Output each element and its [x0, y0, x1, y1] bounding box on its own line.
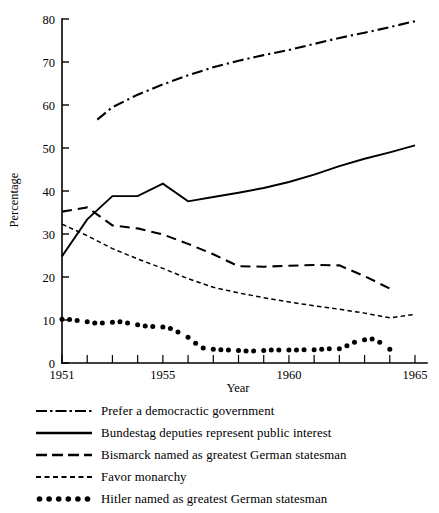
data-point	[211, 347, 216, 352]
legend-entry: Bismarck named as greatest German states…	[0, 444, 439, 466]
y-tick-label: 40	[43, 185, 56, 199]
series-line	[62, 145, 415, 256]
data-point	[218, 347, 223, 352]
chart-figure: 010203040506070801951195519601965 Percen…	[0, 0, 439, 513]
data-series-group	[60, 21, 416, 353]
data-point	[302, 347, 307, 352]
data-point	[160, 324, 165, 329]
data-point	[143, 324, 148, 329]
data-point	[67, 317, 72, 322]
data-point	[60, 317, 65, 322]
data-point	[337, 346, 342, 351]
x-axis-title: Year	[226, 381, 250, 395]
data-point	[175, 330, 180, 335]
data-point	[85, 319, 90, 324]
data-point	[201, 345, 206, 350]
legend-label: Hitler named as greatest German statesma…	[101, 492, 327, 507]
data-point	[193, 341, 198, 346]
data-point	[226, 348, 231, 353]
data-point	[387, 347, 392, 352]
axes: 010203040506070801951195519601965	[43, 13, 428, 383]
data-point	[168, 326, 173, 331]
data-point	[244, 348, 249, 353]
series-line	[97, 21, 415, 119]
legend-line-sample-round-dots	[36, 492, 92, 506]
legend-entry: Bundestag deputies represent public inte…	[0, 422, 439, 444]
data-point	[377, 340, 382, 345]
x-tick-label: 1965	[403, 368, 428, 382]
data-point	[125, 321, 130, 326]
legend-label: Bismarck named as greatest German states…	[101, 448, 347, 463]
x-tick-label: 1955	[150, 368, 175, 382]
data-point	[75, 318, 80, 323]
x-tick-label: 1951	[50, 368, 75, 382]
data-point	[135, 322, 140, 327]
legend-label: Bundestag deputies represent public inte…	[101, 426, 331, 441]
data-point	[319, 347, 324, 352]
data-point	[370, 336, 375, 341]
series-5	[60, 317, 393, 354]
legend-line-sample-dash-dot	[36, 404, 92, 418]
series-4	[62, 224, 415, 318]
data-point	[100, 321, 105, 326]
data-point	[276, 348, 281, 353]
y-tick-label: 10	[43, 314, 56, 328]
series-1	[97, 21, 415, 119]
y-tick-label: 60	[43, 99, 56, 113]
legend-line-sample-solid	[36, 426, 92, 440]
data-point	[312, 347, 317, 352]
legend-label: Prefer a democractic government	[101, 404, 274, 419]
data-point	[294, 348, 299, 353]
data-point	[269, 348, 274, 353]
y-tick-label: 20	[43, 271, 56, 285]
series-line	[62, 224, 415, 318]
legend-label: Favor monarchy	[101, 470, 187, 485]
data-point	[261, 348, 266, 353]
legend-entry: Prefer a democractic government	[0, 400, 439, 422]
data-point	[236, 348, 241, 353]
data-point	[344, 343, 349, 348]
data-point	[251, 348, 256, 353]
data-point	[150, 324, 155, 329]
data-point	[110, 320, 115, 325]
legend-entry: Hitler named as greatest German statesma…	[0, 488, 439, 510]
x-tick-label: 1960	[276, 368, 301, 382]
data-point	[327, 346, 332, 351]
line-chart-plot: 010203040506070801951195519601965 Percen…	[0, 0, 439, 400]
y-tick-label: 30	[43, 228, 56, 242]
y-tick-label: 70	[43, 56, 56, 70]
legend-entry: Favor monarchy	[0, 466, 439, 488]
y-axis-title: Percentage	[7, 172, 21, 227]
data-point	[286, 348, 291, 353]
series-2	[62, 145, 415, 256]
legend-line-sample-dashed	[36, 448, 92, 462]
data-point	[92, 321, 97, 326]
y-tick-label: 50	[43, 142, 56, 156]
y-tick-label: 80	[43, 13, 56, 27]
chart-legend: Prefer a democractic governmentBundestag…	[0, 400, 439, 513]
data-point	[352, 340, 357, 345]
data-point	[186, 335, 191, 340]
data-point	[117, 319, 122, 324]
data-point	[362, 337, 367, 342]
legend-line-sample-fine-dotted	[36, 470, 92, 484]
